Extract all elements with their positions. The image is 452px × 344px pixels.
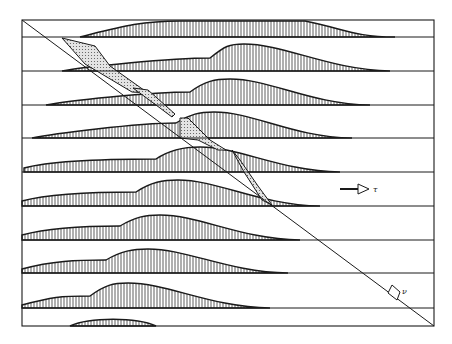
distribution-diagram: τ ν xyxy=(0,0,452,344)
hatched-profile xyxy=(22,283,270,308)
figure-container: τ ν xyxy=(0,0,452,344)
hatched-profile xyxy=(80,21,395,37)
nu-arrow-icon xyxy=(388,285,400,300)
hatched-profile xyxy=(46,79,370,105)
tau-arrow-icon xyxy=(340,184,369,194)
hatched-profile xyxy=(22,180,320,206)
hatched-profile xyxy=(22,249,288,273)
hatched-profile xyxy=(22,215,300,240)
hatched-profile xyxy=(70,319,156,326)
hatched-profiles xyxy=(22,21,395,326)
nu-label: ν xyxy=(402,287,407,296)
tau-label: τ xyxy=(373,185,378,194)
hatched-profile xyxy=(24,147,340,172)
